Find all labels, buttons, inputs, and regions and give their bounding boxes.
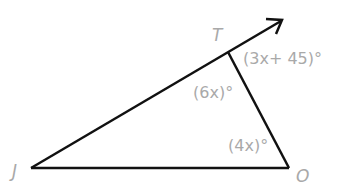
angle-label-exterior-t: (3x+ 45)° xyxy=(243,51,322,67)
triangle-figure xyxy=(0,0,338,187)
vertex-label-t: T xyxy=(212,27,222,44)
angle-label-interior-o: (4x)° xyxy=(228,138,268,154)
diagram-canvas: T J O (3x+ 45)° (6x)° (4x)° xyxy=(0,0,338,187)
vertex-label-o: O xyxy=(296,168,309,185)
angle-label-interior-t: (6x)° xyxy=(193,85,233,101)
vertex-label-j: J xyxy=(12,163,17,180)
